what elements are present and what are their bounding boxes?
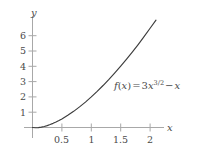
x-axis-label: x <box>167 123 173 133</box>
x-tick-label-0point5: 0.5 <box>54 135 69 145</box>
plot-canvas <box>0 0 215 165</box>
equals-sign: = <box>131 80 141 91</box>
y-tick-label-1: 1 <box>20 108 26 118</box>
function-annotation: f(x)=3x3/2−x <box>114 81 180 91</box>
x-tick-label-2: 2 <box>147 135 153 145</box>
y-tick-label-2: 2 <box>20 92 26 102</box>
y-tick-label-4: 4 <box>20 62 26 72</box>
x-tick-label-1: 1 <box>89 135 95 145</box>
y-tick-label-3: 3 <box>20 77 26 87</box>
y-tick-label-5: 5 <box>20 46 26 56</box>
x-tick-label-1point5: 1.5 <box>113 135 128 145</box>
linear-term: x <box>174 80 180 91</box>
y-tick-label-6: 6 <box>20 31 26 41</box>
y-axis-label: y <box>31 8 37 18</box>
function-curve <box>33 20 156 128</box>
exponent: 3/2 <box>154 79 164 87</box>
minus-sign: − <box>164 80 174 91</box>
function-plot-figure: y x 1 2 3 4 5 6 0.5 1 1.5 2 f(x)=3x3/2−x <box>0 0 215 165</box>
